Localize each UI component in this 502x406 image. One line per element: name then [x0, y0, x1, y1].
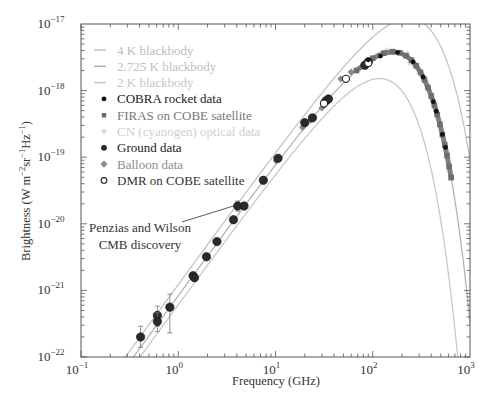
y-tick-label: 10−22 [37, 347, 64, 364]
data-point [443, 145, 448, 150]
data-point [366, 57, 371, 62]
legend-label: Balloon data [117, 157, 183, 172]
data-point [440, 132, 445, 137]
data-point [425, 85, 431, 91]
data-point [437, 122, 443, 128]
data-point [136, 333, 144, 341]
data-point [190, 274, 198, 282]
legend-item-2-725-k-blackbody: 2.725 K blackbody [94, 59, 217, 74]
x-tick-label: 103 [457, 360, 475, 377]
legend-marker [100, 161, 107, 168]
data-point [213, 237, 221, 245]
y-tick-label: 10−17 [37, 14, 65, 31]
data-point [240, 202, 248, 210]
plot-border [81, 24, 470, 357]
legend-item-cn-cyanogen-optical-data: CN (cyanogen) optical data [101, 124, 261, 139]
axes-frame: 10−110010110210310−1710−1810−1910−2010−2… [37, 14, 475, 377]
data-point [448, 175, 454, 181]
series-firas-on-cobe-satellite [354, 49, 454, 181]
legend-label: Ground data [117, 140, 182, 155]
legend-label: 2 K blackbody [117, 75, 194, 90]
legend-marker [101, 128, 108, 134]
data-point [421, 75, 426, 80]
data-point [308, 114, 316, 122]
data-point [202, 253, 210, 261]
annotation-line-1: Penzias and Wilson [89, 220, 191, 235]
legend-item-firas-on-cobe-satellite: FIRAS on COBE satellite [102, 108, 252, 123]
legend-item-cobra-rocket-data: COBRA rocket data [102, 91, 222, 106]
data-point [166, 303, 174, 311]
data-point [229, 216, 237, 224]
y-tick-label: 10−18 [37, 81, 65, 98]
legend-marker [101, 178, 107, 184]
data-point [274, 154, 282, 162]
data-point [418, 70, 424, 76]
legend-label: FIRAS on COBE satellite [117, 108, 252, 123]
data-point [342, 75, 349, 82]
cmb-spectrum-chart: 10−110010110210310−1710−1810−1910−2010−2… [0, 0, 502, 406]
legend-marker [102, 97, 107, 102]
data-point [403, 53, 409, 59]
x-axis-label: Frequency (GHz) [232, 374, 320, 388]
legend-label: 2.725 K blackbody [117, 59, 217, 74]
y-axis-label: Brightness (W m−2sr−1Hz−1) [17, 121, 33, 261]
legend-label: DMR on COBE satellite [117, 173, 245, 188]
data-point [411, 59, 416, 64]
data-point [320, 100, 327, 107]
data-point [395, 50, 400, 55]
data-point [444, 153, 450, 159]
data-point [429, 93, 435, 99]
x-tick-label: 10−1 [66, 360, 89, 377]
data-point [390, 49, 396, 55]
series-cobra-rocket-data [366, 50, 448, 150]
data-point [259, 176, 267, 184]
annotation-line-2: CMB discovery [99, 237, 182, 252]
legend-item-4-k-blackbody: 4 K blackbody [94, 43, 194, 58]
y-tick-label: 10−21 [37, 280, 64, 297]
data-point [434, 109, 439, 114]
x-tick-label: 102 [360, 360, 378, 377]
legend-marker [102, 113, 106, 117]
y-tick-label: 10−19 [37, 147, 65, 164]
legend-label: COBRA rocket data [117, 91, 222, 106]
x-tick-label: 100 [166, 360, 184, 377]
y-tick-label: 10−20 [37, 214, 65, 231]
legend-marker [101, 145, 106, 150]
data-point [354, 68, 360, 74]
legend-label: CN (cyanogen) optical data [117, 124, 261, 139]
legend-label: 4 K blackbody [117, 43, 194, 58]
data-point [301, 118, 309, 126]
legend: 4 K blackbody2.725 K blackbody2 K blackb… [94, 43, 261, 188]
data-point [431, 99, 436, 104]
data-point [378, 54, 383, 59]
legend-item-balloon-data: Balloon data [100, 157, 183, 172]
legend-item-ground-data: Ground data [101, 140, 181, 155]
data-point [153, 317, 161, 325]
data-point [446, 164, 452, 170]
legend-item-2-k-blackbody: 2 K blackbody [94, 75, 194, 90]
legend-item-dmr-on-cobe-satellite: DMR on COBE satellite [101, 173, 244, 188]
